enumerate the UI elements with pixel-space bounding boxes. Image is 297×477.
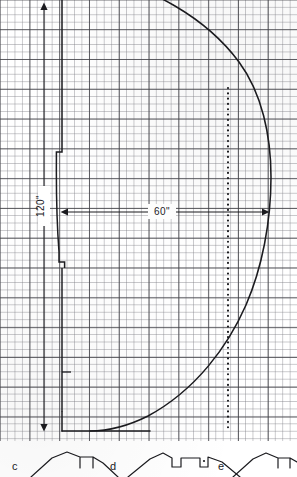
subfigures-row: c d e [12,452,297,477]
left-wall-profile [56,0,71,412]
width-dimension-label: 60" [154,206,170,217]
figure-page: 120" 60" c d e [0,0,297,477]
subfigure-d-label: d [110,460,116,472]
drawing-overlay: 120" 60" c d e [0,0,297,477]
subfigure-c: c [12,452,118,477]
dome-profile-curve [90,0,271,431]
subfigure-e-label: e [218,460,224,472]
height-dimension-label: 120" [35,195,46,217]
subfigure-d-dot [203,460,205,462]
subfigure-c-label: c [12,460,18,472]
width-dimension: 60" [61,204,270,219]
subfigure-e: e [218,453,297,477]
height-dimension: 120" [35,2,50,431]
